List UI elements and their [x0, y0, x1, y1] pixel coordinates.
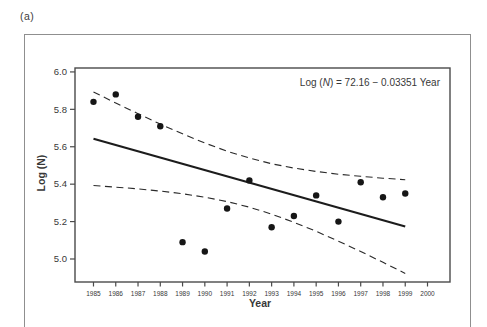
- lower-confidence-band: [93, 185, 405, 273]
- data-point: [157, 123, 163, 129]
- x-tick-label: 1992: [242, 290, 257, 297]
- plot-frame: [75, 68, 450, 282]
- y-axis-title: Log (N): [35, 155, 47, 192]
- x-tick-label: 1996: [331, 290, 346, 297]
- scatter-chart: 5.05.25.45.65.86.01985198619871988198919…: [0, 0, 487, 327]
- x-tick-label: 1997: [353, 290, 368, 297]
- x-tick-label: 1994: [287, 290, 302, 297]
- data-point: [135, 114, 141, 120]
- x-tick-label: 1987: [131, 290, 146, 297]
- data-point: [179, 239, 185, 245]
- y-tick-label: 5.2: [54, 216, 67, 227]
- data-point: [90, 99, 96, 105]
- y-tick-label: 5.0: [54, 253, 67, 264]
- x-tick-label: 1999: [398, 290, 413, 297]
- x-tick-label: 1986: [109, 290, 124, 297]
- y-tick-label: 5.6: [54, 141, 67, 152]
- x-tick-label: 1993: [264, 290, 279, 297]
- data-point: [246, 177, 252, 183]
- y-tick-label: 5.4: [54, 178, 67, 189]
- x-tick-label: 1985: [86, 290, 101, 297]
- x-axis-title: Year: [249, 297, 271, 309]
- data-point: [291, 213, 297, 219]
- data-point: [402, 190, 408, 196]
- equation-annotation: Log (N) = 72.16 − 0.03351 Year: [300, 77, 441, 88]
- data-point: [358, 179, 364, 185]
- x-tick-label: 1990: [198, 290, 213, 297]
- data-point: [335, 218, 341, 224]
- y-tick-label: 6.0: [54, 66, 67, 77]
- upper-confidence-band: [93, 92, 405, 180]
- y-tick-label: 5.8: [54, 104, 67, 115]
- x-tick-label: 2000: [420, 290, 435, 297]
- data-point: [202, 248, 208, 254]
- x-tick-label: 1995: [309, 290, 324, 297]
- x-tick-label: 1989: [175, 290, 190, 297]
- x-tick-label: 1991: [220, 290, 235, 297]
- x-tick-label: 1998: [376, 290, 391, 297]
- data-point: [380, 194, 386, 200]
- figure: (a) 5.05.25.45.65.86.0198519861987198819…: [0, 0, 487, 327]
- data-point: [224, 205, 230, 211]
- x-tick-label: 1988: [153, 290, 168, 297]
- data-point: [268, 224, 274, 230]
- data-point: [313, 192, 319, 198]
- data-point: [113, 91, 119, 97]
